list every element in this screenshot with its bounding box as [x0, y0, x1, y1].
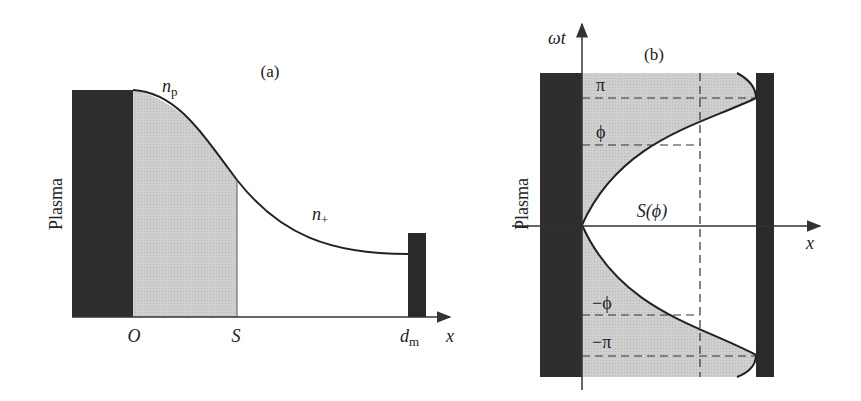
wt-label: ωt: [548, 28, 567, 48]
neg-phi-label: −ϕ: [592, 293, 612, 313]
plasma-block: [72, 90, 133, 317]
x-axis-label-b: x: [805, 233, 814, 253]
figure-canvas: (a) Plasma np n+ O S dm x (b): [0, 0, 861, 401]
sheath-label: S: [232, 326, 241, 346]
s-phi-label: S(ϕ): [637, 201, 667, 222]
dm-label: dm: [400, 326, 419, 349]
plasma-label: Plasma: [46, 178, 66, 230]
electrode-block: [408, 233, 426, 317]
panel-b: (b) ωt Plasma π ϕ −ϕ −π S(ϕ) x: [512, 24, 820, 390]
phi-label: ϕ: [596, 122, 605, 142]
origin-label: O: [128, 326, 141, 346]
plasma-block-b: [540, 73, 582, 377]
panel-a: (a) Plasma np n+ O S dm x: [46, 62, 454, 349]
n-plus-label: n+: [312, 204, 328, 227]
plasma-label-b: Plasma: [512, 178, 532, 230]
x-axis-label-a: x: [445, 326, 454, 346]
np-label: np: [162, 76, 178, 99]
panel-a-title: (a): [261, 62, 280, 81]
pi-label: π: [596, 75, 605, 95]
electrode-block-b: [756, 73, 774, 377]
sheath-region-upper: [582, 73, 756, 225]
neg-pi-label: −π: [592, 332, 611, 352]
panel-b-title: (b): [644, 45, 664, 64]
sheath-region: [133, 90, 237, 317]
